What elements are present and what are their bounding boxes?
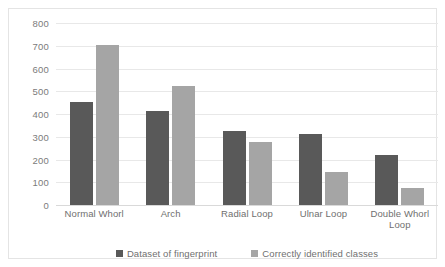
bar[interactable] <box>375 155 398 205</box>
y-axis-tick-label: 0 <box>44 200 49 211</box>
chart-legend: Dataset of fingerprintCorrectly identifi… <box>56 245 438 261</box>
bar-group <box>56 23 132 205</box>
y-axis: 8007006005004003002001000 <box>17 23 53 205</box>
x-axis-tick-label: Ulnar Loop <box>285 208 361 242</box>
x-axis: Normal WhorlArchRadial LoopUlnar LoopDou… <box>56 208 438 242</box>
bar[interactable] <box>299 134 322 205</box>
y-axis-tick-label: 600 <box>33 63 49 74</box>
legend-label: Correctly identified classes <box>262 248 378 259</box>
bar[interactable] <box>401 188 424 205</box>
bar-group <box>362 23 438 205</box>
legend-swatch-icon <box>116 250 123 257</box>
legend-item[interactable]: Correctly identified classes <box>251 248 378 259</box>
legend-label: Dataset of fingerprint <box>127 248 217 259</box>
chart-frame: 8007006005004003002001000 Normal WhorlAr… <box>8 8 437 259</box>
bar-groups <box>56 23 438 205</box>
bar-group <box>132 23 208 205</box>
bar[interactable] <box>146 111 169 205</box>
bar-group <box>285 23 361 205</box>
y-axis-tick-label: 500 <box>33 86 49 97</box>
y-axis-tick-label: 700 <box>33 40 49 51</box>
x-axis-tick-label: Double Whorl Loop <box>362 208 438 242</box>
y-axis-tick-label: 800 <box>33 18 49 29</box>
bar-group <box>209 23 285 205</box>
bar[interactable] <box>172 86 195 205</box>
y-axis-tick-label: 400 <box>33 109 49 120</box>
legend-swatch-icon <box>251 250 258 257</box>
bar[interactable] <box>249 142 272 205</box>
legend-item[interactable]: Dataset of fingerprint <box>116 248 217 259</box>
chart-screenshot: 8007006005004003002001000 Normal WhorlAr… <box>0 0 445 267</box>
plot-area <box>56 23 438 205</box>
bar[interactable] <box>223 131 246 205</box>
bar[interactable] <box>96 45 119 205</box>
bar[interactable] <box>325 172 348 205</box>
x-axis-tick-label: Radial Loop <box>209 208 285 242</box>
y-axis-tick-label: 300 <box>33 131 49 142</box>
axis-baseline <box>56 205 438 206</box>
x-axis-tick-label: Arch <box>132 208 208 242</box>
y-axis-tick-label: 100 <box>33 177 49 188</box>
y-axis-tick-label: 200 <box>33 154 49 165</box>
x-axis-tick-label: Normal Whorl <box>56 208 132 242</box>
bar[interactable] <box>70 102 93 206</box>
